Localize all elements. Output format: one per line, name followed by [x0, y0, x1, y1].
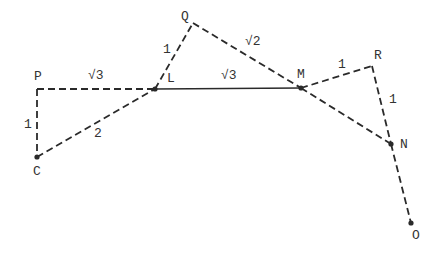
length-label-lm: √3 [221, 68, 237, 83]
point-label-q: Q [181, 9, 189, 24]
length-label-lq: 1 [163, 42, 171, 57]
length-label-pc: 1 [24, 117, 32, 132]
point-label-p: P [34, 69, 42, 84]
geometry-diagram: √3121√2√311PLQMRNCO [0, 0, 439, 254]
point-l-dot [152, 86, 157, 91]
length-label-mr: 1 [338, 57, 346, 72]
segment-qm [193, 23, 301, 88]
length-label-cl: 2 [94, 126, 102, 141]
point-label-r: R [374, 48, 382, 63]
length-label-rn: 1 [389, 92, 397, 107]
segment-cl [37, 89, 155, 157]
segment-no [391, 144, 411, 223]
point-n-dot [388, 141, 393, 146]
segment-mn [301, 88, 391, 144]
points-layer [34, 85, 413, 225]
length-label-pl: √3 [88, 68, 104, 83]
point-label-n: N [400, 137, 408, 152]
point-label-o: O [412, 228, 420, 243]
point-c-dot [34, 154, 39, 159]
point-label-c: C [33, 164, 41, 179]
point-label-l: L [167, 71, 175, 86]
point-o-dot [408, 220, 413, 225]
point-m-dot [298, 85, 303, 90]
segment-lm [155, 88, 301, 89]
length-label-qm: √2 [245, 34, 261, 49]
segment-mr [301, 66, 372, 88]
point-label-m: M [297, 67, 305, 82]
segments-layer [37, 23, 411, 223]
